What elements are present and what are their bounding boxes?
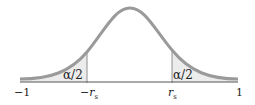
axis-label-max: 1 (236, 86, 243, 99)
right-tail-label: α/2 (173, 68, 193, 82)
left-crit-symbol: −r (80, 86, 94, 99)
bell-curve-diagram (0, 0, 255, 105)
axis-label-min: −1 (14, 86, 30, 99)
left-tail-label: α/2 (63, 68, 83, 82)
axis-label-left-critical: −rs (80, 86, 98, 101)
left-crit-subscript: s (94, 93, 98, 101)
axis-label-right-critical: rs (168, 86, 177, 101)
right-crit-subscript: s (173, 93, 177, 101)
bell-curve (20, 8, 238, 79)
